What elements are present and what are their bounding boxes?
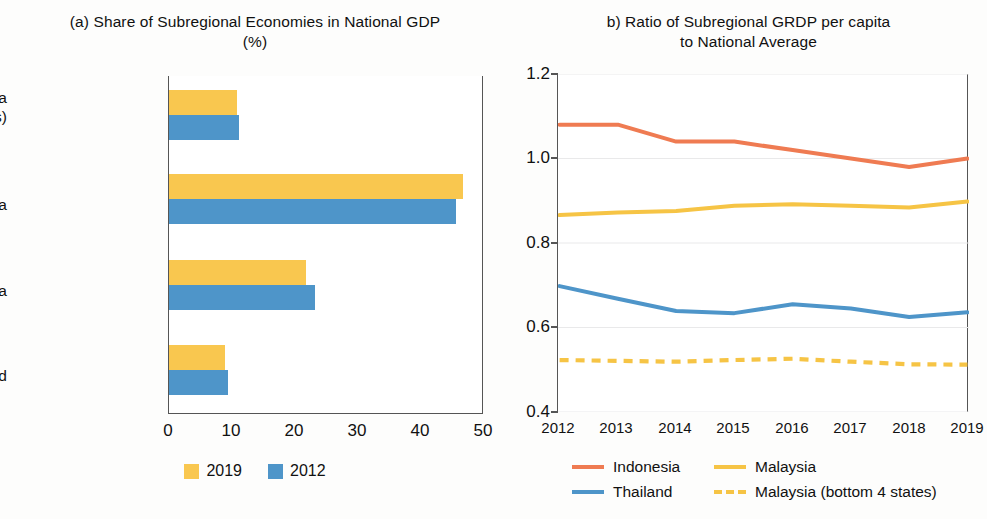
panel-b-title: b) Ratio of Subregional GRDP per capita … <box>510 12 987 52</box>
legend-item-thailand: Thailand <box>572 483 714 501</box>
legend-label-thailand: Thailand <box>613 483 672 501</box>
legend-row-2: Thailand Malaysia (bottom 4 states) <box>510 483 987 501</box>
panel-b-legend: Indonesia Malaysia Thailand Malaysia (bo… <box>510 458 987 508</box>
legend-label-2019: 2019 <box>206 462 242 480</box>
legend-item-indonesia: Indonesia <box>572 458 714 476</box>
bar-malaysia-2019 <box>169 174 463 199</box>
xtick-b-2019: 2019 <box>950 419 983 436</box>
legend-swatch-2012 <box>268 464 283 479</box>
panel-b-plot-area <box>557 74 968 412</box>
legend-item-malaysia-bottom4: Malaysia (bottom 4 states) <box>714 483 937 501</box>
legend-line-malaysia-bottom4 <box>714 490 746 494</box>
panel-b-title-line2: to National Average <box>510 32 987 52</box>
bar-category-label-thailand: Thailand <box>0 366 7 385</box>
legend-label-indonesia: Indonesia <box>613 458 680 476</box>
bar-malaysia-bottom4-2019 <box>169 90 237 115</box>
panel-b-line-chart: b) Ratio of Subregional GRDP per capita … <box>510 0 987 519</box>
line-malaysia-bottom-4-states <box>560 359 968 365</box>
bar-category-label-malaysia-bottom4: Malaysia (bottom 4 states) Malaysia (bot… <box>0 88 7 126</box>
xtick-b-2013: 2013 <box>599 419 632 436</box>
bar-malaysia-bottom4-2012 <box>169 115 239 140</box>
line-malaysia <box>560 202 968 216</box>
panel-a-legend: 2019 2012 <box>0 462 510 480</box>
panel-a-bar-chart: (a) Share of Subregional Economies in Na… <box>0 0 510 519</box>
legend-swatch-2019 <box>184 464 199 479</box>
legend-label-malaysia-bottom4: Malaysia (bottom 4 states) <box>755 483 937 501</box>
ytick-b-0-6: 0.6 <box>510 317 550 337</box>
legend-label-malaysia: Malaysia <box>755 458 816 476</box>
legend-item-2019: 2019 <box>184 462 242 480</box>
ytick-b-0-8: 0.8 <box>510 233 550 253</box>
xtick-a-10: 10 <box>222 421 241 441</box>
xtick-b-2017: 2017 <box>833 419 866 436</box>
legend-item-2012: 2012 <box>268 462 326 480</box>
cat-line1: Malaysia <box>0 88 7 107</box>
xtick-b-2012: 2012 <box>541 419 574 436</box>
bar-category-label-indonesia: Indonesia <box>0 281 7 300</box>
legend-line-malaysia <box>714 465 746 469</box>
bar-malaysia-2012 <box>169 199 456 224</box>
bar-indonesia-2019 <box>169 260 306 285</box>
bar-category-label-malaysia: Malaysia <box>0 195 7 214</box>
ytick-b-1-0: 1.0 <box>510 148 550 168</box>
xtick-b-2016: 2016 <box>775 419 808 436</box>
xtick-b-2018: 2018 <box>892 419 925 436</box>
legend-line-thailand <box>572 490 604 494</box>
cat-line2: (bottom 4 states) <box>0 107 7 126</box>
line-indonesia <box>560 125 968 167</box>
line-thailand <box>560 286 968 317</box>
panel-a-plot-area <box>168 76 483 414</box>
xtick-a-0: 0 <box>163 421 172 441</box>
legend-line-indonesia <box>572 465 604 469</box>
xtick-b-2015: 2015 <box>716 419 749 436</box>
legend-row-1: Indonesia Malaysia <box>510 458 987 476</box>
bar-indonesia-2012 <box>169 285 315 310</box>
ytick-b-1-2: 1.2 <box>510 64 550 84</box>
line-series-svg <box>558 74 969 412</box>
xtick-b-2014: 2014 <box>658 419 691 436</box>
bar-thailand-2012 <box>169 370 228 395</box>
xtick-a-40: 40 <box>411 421 430 441</box>
panel-b-title-line1: b) Ratio of Subregional GRDP per capita <box>510 12 987 32</box>
xtick-a-20: 20 <box>285 421 304 441</box>
xtick-a-50: 50 <box>474 421 493 441</box>
figure-container: (a) Share of Subregional Economies in Na… <box>0 0 987 519</box>
panel-a-title-line2: (%) <box>0 32 510 52</box>
legend-label-2012: 2012 <box>290 462 326 480</box>
legend-item-malaysia: Malaysia <box>714 458 816 476</box>
bar-thailand-2019 <box>169 345 225 370</box>
xtick-a-30: 30 <box>348 421 367 441</box>
panel-a-title-line1: (a) Share of Subregional Economies in Na… <box>0 12 510 32</box>
panel-a-title: (a) Share of Subregional Economies in Na… <box>0 12 510 52</box>
